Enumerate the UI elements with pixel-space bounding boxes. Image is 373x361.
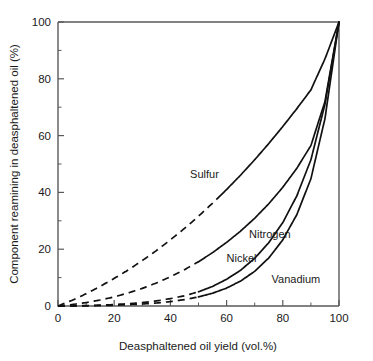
curve-label-nitrogen: Nitrogen [249, 228, 291, 240]
y-tick-label: 100 [32, 16, 51, 28]
chart-background [0, 0, 373, 361]
chart-figure: 020406080100020406080100 SulfurNitrogenN… [0, 0, 373, 361]
y-axis-title: Component reamining in deasphaltened oil… [8, 44, 20, 284]
y-tick-label: 80 [38, 73, 51, 85]
curve-label-vanadium: Vanadium [272, 273, 321, 285]
curve-label-sulfur: Sulfur [190, 168, 219, 180]
y-tick-label: 60 [38, 130, 51, 142]
y-tick-label: 40 [38, 186, 51, 198]
curve-label-nickel: Nickel [227, 252, 257, 264]
y-tick-label: 0 [45, 300, 51, 312]
line-chart: 020406080100020406080100 SulfurNitrogenN… [0, 0, 373, 361]
x-tick-label: 80 [276, 312, 289, 324]
x-axis-title: Deasphaltened oil yield (vol.%) [119, 340, 277, 352]
x-tick-label: 100 [329, 312, 348, 324]
x-tick-label: 40 [164, 312, 177, 324]
x-tick-label: 0 [55, 312, 61, 324]
x-tick-label: 20 [108, 312, 121, 324]
x-tick-label: 60 [220, 312, 233, 324]
y-tick-label: 20 [38, 243, 51, 255]
